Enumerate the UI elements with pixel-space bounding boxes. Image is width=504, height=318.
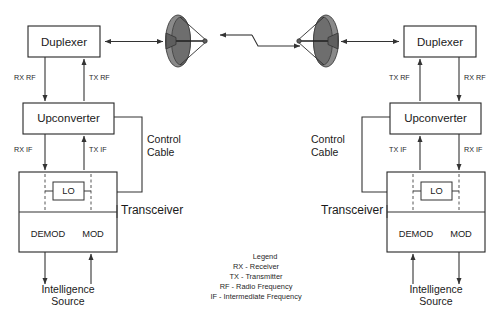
left-intelligence-source-line2: Source (51, 295, 84, 307)
left-duplexer-label: Duplexer (41, 36, 87, 48)
left-rx-rf-label: RX RF (14, 73, 36, 82)
right-control-cable-wire (362, 117, 390, 192)
right-mod-label: MOD (450, 229, 472, 239)
left-rx-if-label: RX IF (14, 145, 33, 154)
right-rx-rf-label: RX RF (464, 73, 486, 82)
right-tx-rf-label: TX RF (389, 73, 410, 82)
right-intelligence-source-line1: Intelligence (409, 283, 462, 295)
right-antenna-dish[interactable] (297, 15, 339, 67)
legend-title: Legend (253, 252, 278, 261)
left-control-cable-label-line1: Control (147, 133, 181, 145)
communications-link-diagram: Duplexer RX RF TX RF Upconverter Control… (0, 0, 504, 318)
right-lo-label: LO (430, 186, 442, 196)
left-intelligence-source-line1: Intelligence (41, 283, 94, 295)
legend: Legend RX - Receiver TX - Transmitter RF… (210, 252, 301, 301)
left-tx-if-label: TX IF (89, 145, 107, 154)
left-station: Duplexer RX RF TX RF Upconverter Control… (14, 15, 207, 307)
legend-item-tx: TX - Transmitter (230, 272, 284, 281)
rf-link-arrow-right (252, 35, 300, 46)
right-tx-if-label: TX IF (389, 145, 407, 154)
right-upconverter-label: Upconverter (404, 112, 467, 124)
right-transceiver-label: Transceiver (321, 203, 383, 217)
left-demod-label: DEMOD (31, 229, 66, 239)
left-control-cable-wire (114, 117, 142, 192)
right-station: Duplexer RX RF TX RF Upconverter Control… (297, 15, 486, 307)
left-upconverter-label: Upconverter (37, 112, 100, 124)
rf-link-arrows (220, 35, 300, 46)
legend-item-rf: RF - Radio Frequency (220, 282, 293, 291)
legend-item-if: IF - Intermediate Frequency (210, 292, 301, 301)
legend-item-rx: RX - Receiver (233, 262, 280, 271)
right-demod-label: DEMOD (399, 229, 434, 239)
left-antenna-dish[interactable] (166, 15, 208, 67)
left-lo-label: LO (62, 186, 74, 196)
right-control-cable-label-line2: Cable (311, 146, 339, 158)
right-control-cable-label-line1: Control (311, 133, 345, 145)
right-duplexer-label: Duplexer (417, 36, 463, 48)
left-mod-label: MOD (82, 229, 104, 239)
left-tx-rf-label: TX RF (89, 73, 110, 82)
left-transceiver-label: Transceiver (121, 203, 183, 217)
left-control-cable-label-line2: Cable (147, 146, 175, 158)
right-intelligence-source-line2: Source (419, 295, 452, 307)
right-rx-if-label: RX IF (464, 145, 483, 154)
